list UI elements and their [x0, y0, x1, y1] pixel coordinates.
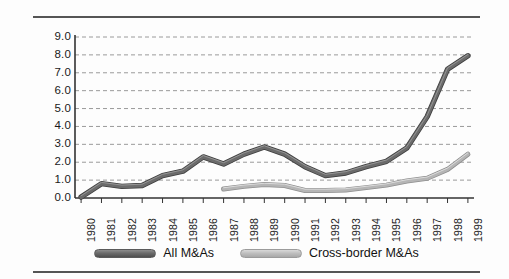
- legend-swatch-cross-border-mas-icon: [240, 249, 302, 258]
- x-tick-label: 1997: [431, 198, 443, 242]
- legend-label-cross-border-mas: Cross-border M&As: [309, 246, 419, 260]
- x-tick-label: 1980: [85, 198, 97, 242]
- figure-top-rule: [33, 16, 480, 18]
- x-tick-label: 1985: [187, 198, 199, 242]
- figure-bottom-rule: [33, 271, 480, 273]
- x-tick-label: 1989: [268, 198, 280, 242]
- x-tick-label: 1994: [370, 198, 382, 242]
- legend-swatch-all-mas-icon: [94, 249, 156, 258]
- x-tick-label: 1998: [452, 198, 464, 242]
- legend-label-all-mas: All M&As: [163, 246, 214, 260]
- x-tick-label: 1982: [126, 198, 138, 242]
- x-tick-label: 1983: [146, 198, 158, 242]
- x-tick-label: 1996: [411, 198, 423, 242]
- x-tick-label: 1981: [105, 198, 117, 242]
- x-tick-label: 1991: [309, 198, 321, 242]
- x-tick-label: 1999: [472, 198, 484, 242]
- x-tick-label: 1992: [329, 198, 341, 242]
- legend-item-cross-border-mas[interactable]: Cross-border M&As: [240, 246, 419, 260]
- plot-area: 9.08.07.06.05.04.03.02.01.00.0 198019811…: [33, 22, 480, 262]
- x-tick-label: 1990: [289, 198, 301, 242]
- gridlines: [75, 37, 474, 180]
- series-line-highlight: [81, 54, 468, 195]
- chart-figure: 9.08.07.06.05.04.03.02.01.00.0 198019811…: [0, 0, 509, 279]
- legend-item-all-mas[interactable]: All M&As: [94, 246, 214, 260]
- x-tick-label: 1984: [167, 198, 179, 242]
- x-tick-label: 1987: [228, 198, 240, 242]
- x-tick-label: 1986: [207, 198, 219, 242]
- axis-lines: [75, 35, 474, 198]
- x-tick-label: 1995: [390, 198, 402, 242]
- x-tick-label: 1993: [350, 198, 362, 242]
- chart-legend: All M&As Cross-border M&As: [33, 242, 480, 264]
- data-series-layer: [81, 54, 468, 197]
- x-tick-label: 1988: [248, 198, 260, 242]
